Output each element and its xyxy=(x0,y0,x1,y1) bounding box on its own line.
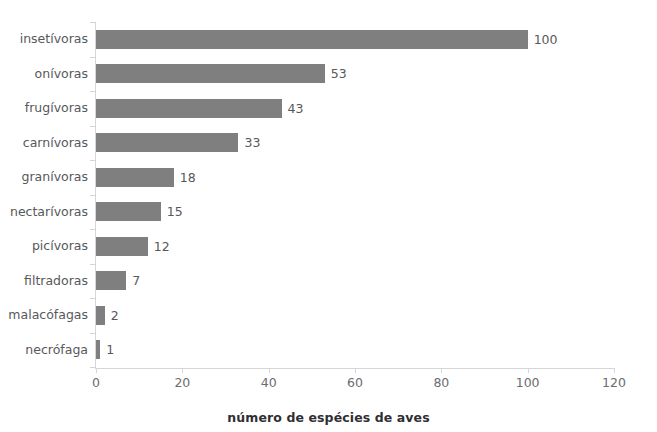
bar xyxy=(96,168,174,187)
bar-value-label: 33 xyxy=(244,133,260,152)
bar xyxy=(96,99,282,118)
y-axis-tick xyxy=(90,333,95,334)
x-axis-tick xyxy=(355,368,356,373)
category-label: insetívoras xyxy=(0,32,88,46)
y-axis-tick xyxy=(90,367,95,368)
x-axis-tick-label: 80 xyxy=(411,375,471,390)
bar xyxy=(96,133,238,152)
x-axis-tick xyxy=(528,368,529,373)
y-axis-tick xyxy=(90,298,95,299)
bar-value-label: 7 xyxy=(132,271,140,290)
bar-chart: 020406080100120 insetívorasonívorasfrugí… xyxy=(0,0,657,432)
category-label: necrófaga xyxy=(0,343,88,357)
bar-value-label: 53 xyxy=(331,64,347,83)
category-label: picívoras xyxy=(0,239,88,253)
category-label: granívoras xyxy=(0,170,88,184)
y-axis-tick xyxy=(90,126,95,127)
y-axis-tick xyxy=(90,22,95,23)
y-axis-tick xyxy=(90,57,95,58)
x-axis-tick xyxy=(96,368,97,373)
bar-value-label: 1 xyxy=(106,340,114,359)
x-axis-tick-label: 20 xyxy=(152,375,212,390)
y-axis-tick xyxy=(90,229,95,230)
category-label: nectarívoras xyxy=(0,205,88,219)
x-axis-tick xyxy=(614,368,615,373)
bar xyxy=(96,237,148,256)
x-axis-tick-label: 120 xyxy=(584,375,644,390)
y-axis-tick xyxy=(90,195,95,196)
bar-value-label: 18 xyxy=(180,168,196,187)
y-axis-tick xyxy=(90,264,95,265)
x-axis-tick-label: 100 xyxy=(498,375,558,390)
category-label: malacófagas xyxy=(0,308,88,322)
bar xyxy=(96,202,161,221)
bar-value-label: 15 xyxy=(167,202,183,221)
x-axis-tick-label: 60 xyxy=(325,375,385,390)
x-axis-tick xyxy=(182,368,183,373)
x-axis-tick xyxy=(441,368,442,373)
bar xyxy=(96,271,126,290)
bar xyxy=(96,306,105,325)
bar xyxy=(96,64,325,83)
y-axis-tick xyxy=(90,91,95,92)
bar-value-label: 43 xyxy=(288,99,304,118)
bar-value-label: 100 xyxy=(534,30,558,49)
category-label: filtradoras xyxy=(0,274,88,288)
bar xyxy=(96,30,528,49)
category-label: onívoras xyxy=(0,67,88,81)
x-axis-tick-label: 40 xyxy=(239,375,299,390)
bar-value-label: 12 xyxy=(154,237,170,256)
category-label: carnívoras xyxy=(0,136,88,150)
bar xyxy=(96,340,100,359)
x-axis-tick-label: 0 xyxy=(66,375,126,390)
x-axis-tick xyxy=(269,368,270,373)
category-label: frugívoras xyxy=(0,101,88,115)
y-axis-tick xyxy=(90,160,95,161)
x-axis-title: número de espécies de aves xyxy=(0,410,657,425)
bar-value-label: 2 xyxy=(111,306,119,325)
